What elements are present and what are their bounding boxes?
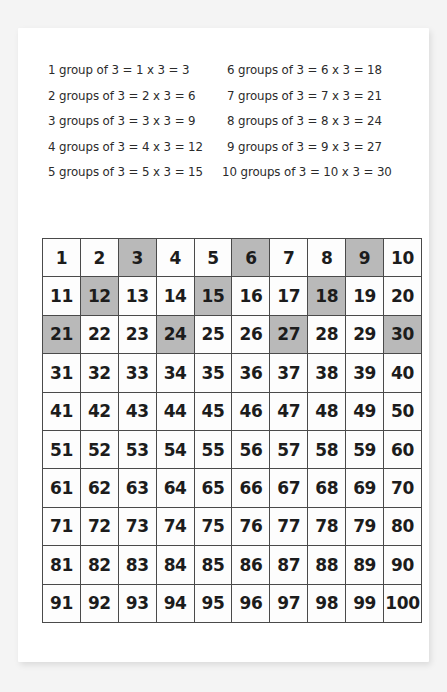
- grid-cell-49[interactable]: 49: [346, 392, 384, 430]
- grid-cell-81[interactable]: 81: [43, 546, 81, 584]
- grid-cell-8[interactable]: 8: [308, 239, 346, 277]
- grid-cell-31[interactable]: 31: [43, 354, 81, 392]
- grid-cell-65[interactable]: 65: [194, 469, 232, 507]
- grid-cell-7[interactable]: 7: [270, 239, 308, 277]
- grid-cell-75[interactable]: 75: [194, 507, 232, 545]
- grid-cell-15[interactable]: 15: [194, 277, 232, 315]
- grid-cell-63[interactable]: 63: [118, 469, 156, 507]
- grid-cell-83[interactable]: 83: [118, 546, 156, 584]
- grid-cell-67[interactable]: 67: [270, 469, 308, 507]
- grid-cell-5[interactable]: 5: [194, 239, 232, 277]
- grid-cell-62[interactable]: 62: [80, 469, 118, 507]
- grid-cell-43[interactable]: 43: [118, 392, 156, 430]
- grid-cell-78[interactable]: 78: [308, 507, 346, 545]
- grid-cell-24[interactable]: 24: [156, 315, 194, 353]
- grid-cell-93[interactable]: 93: [118, 584, 156, 622]
- grid-cell-95[interactable]: 95: [194, 584, 232, 622]
- grid-cell-74[interactable]: 74: [156, 507, 194, 545]
- grid-cell-28[interactable]: 28: [308, 315, 346, 353]
- grid-cell-71[interactable]: 71: [43, 507, 81, 545]
- grid-cell-98[interactable]: 98: [308, 584, 346, 622]
- grid-cell-47[interactable]: 47: [270, 392, 308, 430]
- grid-cell-36[interactable]: 36: [232, 354, 270, 392]
- grid-cell-92[interactable]: 92: [80, 584, 118, 622]
- grid-cell-19[interactable]: 19: [346, 277, 384, 315]
- grid-cell-46[interactable]: 46: [232, 392, 270, 430]
- grid-cell-57[interactable]: 57: [270, 430, 308, 468]
- grid-cell-38[interactable]: 38: [308, 354, 346, 392]
- grid-cell-68[interactable]: 68: [308, 469, 346, 507]
- grid-cell-6[interactable]: 6: [232, 239, 270, 277]
- grid-cell-33[interactable]: 33: [118, 354, 156, 392]
- grid-cell-69[interactable]: 69: [346, 469, 384, 507]
- grid-cell-3[interactable]: 3: [118, 239, 156, 277]
- grid-cell-77[interactable]: 77: [270, 507, 308, 545]
- grid-cell-59[interactable]: 59: [346, 430, 384, 468]
- grid-cell-91[interactable]: 91: [43, 584, 81, 622]
- grid-cell-27[interactable]: 27: [270, 315, 308, 353]
- grid-cell-100[interactable]: 100: [384, 584, 422, 622]
- grid-cell-16[interactable]: 16: [232, 277, 270, 315]
- grid-cell-64[interactable]: 64: [156, 469, 194, 507]
- grid-cell-55[interactable]: 55: [194, 430, 232, 468]
- grid-cell-45[interactable]: 45: [194, 392, 232, 430]
- grid-cell-34[interactable]: 34: [156, 354, 194, 392]
- grid-cell-26[interactable]: 26: [232, 315, 270, 353]
- grid-cell-20[interactable]: 20: [384, 277, 422, 315]
- grid-cell-13[interactable]: 13: [118, 277, 156, 315]
- grid-cell-94[interactable]: 94: [156, 584, 194, 622]
- grid-cell-84[interactable]: 84: [156, 546, 194, 584]
- grid-cell-41[interactable]: 41: [43, 392, 81, 430]
- grid-cell-86[interactable]: 86: [232, 546, 270, 584]
- grid-cell-54[interactable]: 54: [156, 430, 194, 468]
- grid-cell-97[interactable]: 97: [270, 584, 308, 622]
- grid-cell-87[interactable]: 87: [270, 546, 308, 584]
- grid-cell-29[interactable]: 29: [346, 315, 384, 353]
- grid-cell-89[interactable]: 89: [346, 546, 384, 584]
- grid-cell-96[interactable]: 96: [232, 584, 270, 622]
- grid-cell-79[interactable]: 79: [346, 507, 384, 545]
- grid-cell-58[interactable]: 58: [308, 430, 346, 468]
- grid-cell-39[interactable]: 39: [346, 354, 384, 392]
- grid-cell-56[interactable]: 56: [232, 430, 270, 468]
- grid-cell-76[interactable]: 76: [232, 507, 270, 545]
- grid-cell-85[interactable]: 85: [194, 546, 232, 584]
- grid-cell-53[interactable]: 53: [118, 430, 156, 468]
- grid-cell-90[interactable]: 90: [384, 546, 422, 584]
- grid-cell-35[interactable]: 35: [194, 354, 232, 392]
- grid-cell-11[interactable]: 11: [43, 277, 81, 315]
- grid-cell-2[interactable]: 2: [80, 239, 118, 277]
- grid-cell-44[interactable]: 44: [156, 392, 194, 430]
- grid-cell-51[interactable]: 51: [43, 430, 81, 468]
- grid-cell-22[interactable]: 22: [80, 315, 118, 353]
- grid-cell-66[interactable]: 66: [232, 469, 270, 507]
- grid-cell-50[interactable]: 50: [384, 392, 422, 430]
- grid-cell-12[interactable]: 12: [80, 277, 118, 315]
- grid-cell-10[interactable]: 10: [384, 239, 422, 277]
- grid-cell-70[interactable]: 70: [384, 469, 422, 507]
- grid-cell-17[interactable]: 17: [270, 277, 308, 315]
- grid-cell-23[interactable]: 23: [118, 315, 156, 353]
- grid-cell-4[interactable]: 4: [156, 239, 194, 277]
- grid-cell-88[interactable]: 88: [308, 546, 346, 584]
- grid-cell-73[interactable]: 73: [118, 507, 156, 545]
- grid-cell-9[interactable]: 9: [346, 239, 384, 277]
- grid-cell-18[interactable]: 18: [308, 277, 346, 315]
- grid-cell-37[interactable]: 37: [270, 354, 308, 392]
- grid-cell-82[interactable]: 82: [80, 546, 118, 584]
- grid-cell-32[interactable]: 32: [80, 354, 118, 392]
- grid-cell-40[interactable]: 40: [384, 354, 422, 392]
- grid-cell-80[interactable]: 80: [384, 507, 422, 545]
- grid-cell-52[interactable]: 52: [80, 430, 118, 468]
- grid-cell-72[interactable]: 72: [80, 507, 118, 545]
- grid-cell-21[interactable]: 21: [43, 315, 81, 353]
- grid-cell-48[interactable]: 48: [308, 392, 346, 430]
- grid-cell-42[interactable]: 42: [80, 392, 118, 430]
- grid-cell-25[interactable]: 25: [194, 315, 232, 353]
- grid-cell-14[interactable]: 14: [156, 277, 194, 315]
- grid-cell-30[interactable]: 30: [384, 315, 422, 353]
- grid-cell-1[interactable]: 1: [43, 239, 81, 277]
- grid-cell-99[interactable]: 99: [346, 584, 384, 622]
- grid-cell-61[interactable]: 61: [43, 469, 81, 507]
- grid-cell-60[interactable]: 60: [384, 430, 422, 468]
